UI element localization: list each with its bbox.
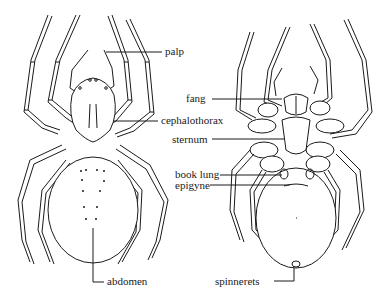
spider-drawings [0,0,383,299]
spider-anatomy-diagram: palp cephalothorax abdomen fang sternum … [0,0,383,299]
label-palp: palp [165,46,184,57]
label-sternum: sternum [172,134,207,145]
label-epigyne: epigyne [175,180,210,191]
label-cephalothorax: cephalothorax [161,115,223,126]
ventral-spider [230,19,372,268]
label-fang: fang [186,93,206,104]
label-abdomen: abdomen [107,276,147,287]
label-spinnerets: spinnerets [215,276,260,287]
